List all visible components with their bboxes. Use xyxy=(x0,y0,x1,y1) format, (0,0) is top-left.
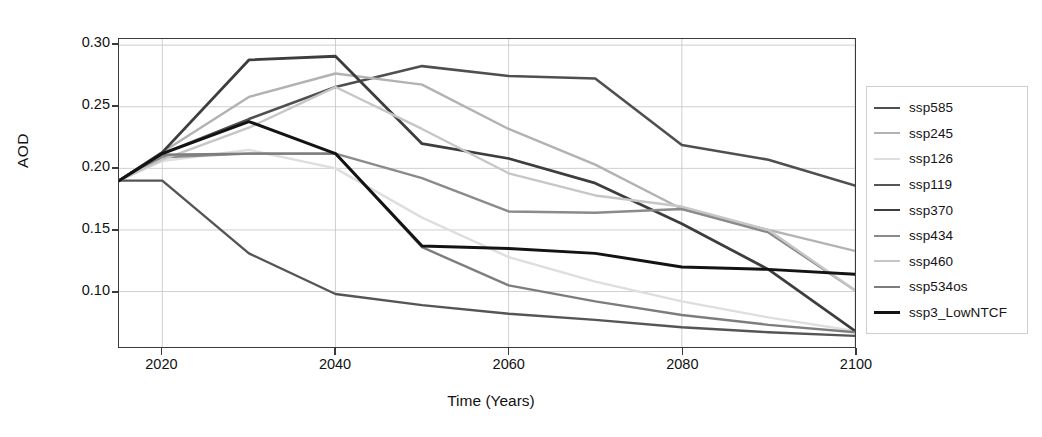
legend-item-ssp534os[interactable]: ssp534os xyxy=(871,274,1021,300)
x-tick-mark xyxy=(508,348,510,355)
y-tick-label: 0.25 xyxy=(46,96,110,112)
legend-item-ssp245[interactable]: ssp245 xyxy=(871,121,1021,147)
x-axis-label-text: Time (Years) xyxy=(447,392,535,410)
legend-item-ssp585[interactable]: ssp585 xyxy=(871,95,1021,121)
x-tick-label: 2100 xyxy=(821,356,891,372)
y-axis-label: AOD xyxy=(14,133,32,168)
legend-line-swatch xyxy=(874,158,900,160)
y-tick-label: 0.15 xyxy=(46,220,110,236)
series-line-ssp126 xyxy=(119,150,855,331)
legend-item-ssp119[interactable]: ssp119 xyxy=(871,172,1021,198)
legend-line-swatch xyxy=(874,132,900,134)
chart-legend: ssp585ssp245ssp126ssp119ssp370ssp434ssp4… xyxy=(866,86,1028,334)
x-tick-mark xyxy=(334,348,336,355)
legend-line-swatch xyxy=(874,235,900,237)
legend-line-swatch xyxy=(874,311,900,314)
legend-item-label: ssp370 xyxy=(909,203,953,218)
legend-item-label: ssp245 xyxy=(909,126,953,141)
x-tick-mark xyxy=(855,348,857,355)
legend-item-label: ssp3_LowNTCF xyxy=(909,305,1007,320)
legend-line-swatch xyxy=(874,260,900,262)
aod-line-chart-figure: AOD 0.100.150.200.250.30 202020402060208… xyxy=(0,0,1042,437)
legend-item-ssp3_LowNTCF[interactable]: ssp3_LowNTCF xyxy=(871,300,1021,326)
legend-item-label: ssp534os xyxy=(909,279,968,294)
legend-line-swatch xyxy=(874,286,900,288)
x-tick-label: 2020 xyxy=(126,356,196,372)
y-tick-label: 0.20 xyxy=(46,158,110,174)
legend-item-ssp434[interactable]: ssp434 xyxy=(871,223,1021,249)
series-line-ssp3_LowNTCF xyxy=(119,122,855,275)
legend-item-label: ssp434 xyxy=(909,228,953,243)
legend-item-ssp126[interactable]: ssp126 xyxy=(871,146,1021,172)
x-tick-mark xyxy=(161,348,163,355)
legend-line-swatch xyxy=(874,107,900,109)
x-axis-label: Time (Years) xyxy=(0,392,1042,410)
legend-line-swatch xyxy=(874,184,900,186)
legend-item-ssp370[interactable]: ssp370 xyxy=(871,197,1021,223)
y-tick-label: 0.30 xyxy=(46,34,110,50)
series-lines xyxy=(119,39,855,347)
legend-item-label: ssp585 xyxy=(909,100,953,115)
legend-item-label: ssp119 xyxy=(909,177,952,192)
x-tick-label: 2060 xyxy=(474,356,544,372)
series-line-ssp585 xyxy=(119,66,855,186)
series-line-ssp534os xyxy=(119,154,855,333)
x-tick-label: 2080 xyxy=(647,356,717,372)
x-tick-mark xyxy=(682,348,684,355)
plot-area xyxy=(118,38,856,348)
legend-item-label: ssp460 xyxy=(909,254,953,269)
legend-line-swatch xyxy=(874,209,900,211)
series-line-ssp370 xyxy=(119,56,855,331)
y-tick-label: 0.10 xyxy=(46,282,110,298)
legend-item-ssp460[interactable]: ssp460 xyxy=(871,249,1021,275)
x-tick-label: 2040 xyxy=(300,356,370,372)
legend-item-label: ssp126 xyxy=(909,151,953,166)
